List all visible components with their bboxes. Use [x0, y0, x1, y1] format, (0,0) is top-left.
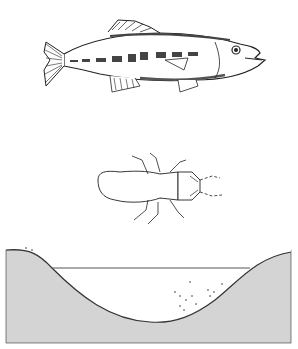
illustration-canvas — [0, 0, 298, 349]
fish-illustration — [44, 20, 265, 92]
insect-nymph-illustration — [98, 153, 222, 224]
pond-cross-section-illustration — [6, 230, 291, 343]
illustration-svg — [0, 0, 298, 349]
